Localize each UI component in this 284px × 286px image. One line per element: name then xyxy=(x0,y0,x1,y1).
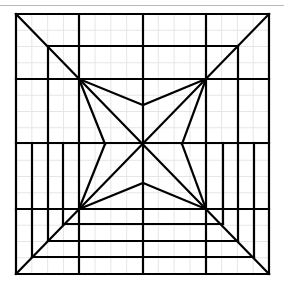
pattern-lines xyxy=(16,14,269,274)
crease-pattern-diagram xyxy=(0,0,284,286)
